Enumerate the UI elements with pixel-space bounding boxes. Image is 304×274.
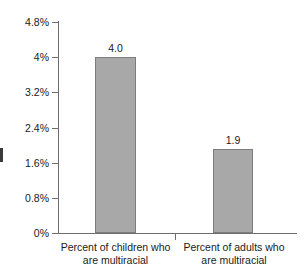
y-tick-label: 2.4% <box>3 123 49 134</box>
category-label-line: are multiracial <box>47 254 184 267</box>
bar-value-label: 4.0 <box>95 43 136 54</box>
category-label-line: Percent of children who <box>47 241 184 254</box>
y-tick-label: 1.6% <box>3 158 49 169</box>
x-axis-line <box>58 233 297 234</box>
category-label-line: Percent of adults who <box>170 241 298 254</box>
y-tick-mark <box>52 92 58 93</box>
y-tick-label: 4% <box>3 52 49 63</box>
category-label-line: are multiracial <box>170 254 298 267</box>
bar-children-multiracial[interactable] <box>95 57 136 233</box>
category-label-adults: Percent of adults who are multiracial <box>170 241 298 266</box>
category-separator-tick <box>175 234 176 240</box>
y-tick-mark <box>52 57 58 58</box>
y-tick-label: 4.8% <box>3 17 49 28</box>
bar-adults-multiracial[interactable] <box>213 149 253 233</box>
y-tick-mark <box>52 198 58 199</box>
y-tick-label: 3.2% <box>3 87 49 98</box>
y-tick-mark <box>52 22 58 23</box>
y-tick-mark <box>52 128 58 129</box>
y-tick-label: 0% <box>3 228 49 239</box>
y-axis-line <box>58 21 59 234</box>
category-label-children: Percent of children who are multiracial <box>47 241 184 266</box>
bar-value-label: 1.9 <box>213 135 253 146</box>
y-tick-mark <box>52 163 58 164</box>
bar-chart: 4.8% 4% 3.2% 2.4% 1.6% 0.8% 0% 4.0 1.9 P… <box>0 0 304 274</box>
y-tick-label: 0.8% <box>3 193 49 204</box>
y-tick-mark <box>52 233 58 234</box>
